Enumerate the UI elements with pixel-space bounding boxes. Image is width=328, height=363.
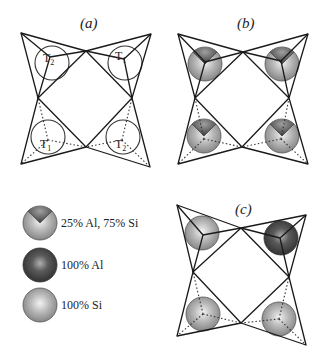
tetrahedron-top-left	[177, 205, 241, 272]
tetrahedron-bottom-right	[241, 277, 306, 345]
tetrahedron-bottom-right	[242, 98, 308, 164]
panel-b: (b)	[178, 15, 308, 164]
legend-label: 100% Al	[61, 258, 104, 272]
site-label-t2: T2	[43, 51, 54, 67]
panel-a: (a) T2 T1 T1	[21, 15, 151, 167]
tetrahedron-bottom-left	[178, 98, 242, 164]
mixed-site-sphere	[187, 119, 221, 153]
site-label-t1: T1	[115, 49, 126, 65]
si-sphere-icon	[23, 288, 57, 322]
tetrahedron-bottom-left	[177, 272, 241, 336]
panel-c-label: (c)	[235, 201, 252, 218]
tetrahedron-top-right: T1	[86, 34, 151, 98]
al-sphere-icon	[23, 248, 57, 282]
tetrahedron-bottom-right: T2	[86, 98, 150, 167]
legend-label: 100% Si	[61, 298, 103, 312]
site-label-t1: T1	[40, 137, 51, 153]
tetrahedra-figure: (a) T2 T1 T1	[0, 0, 328, 363]
mixed-site-sphere	[265, 119, 299, 153]
legend-item-al: 100% Al	[23, 248, 104, 282]
tetrahedron-top-left: T2	[21, 33, 86, 98]
legend-item-si: 100% Si	[23, 288, 103, 322]
tetrahedron-top-left	[178, 34, 243, 98]
panel-c: (c)	[177, 201, 306, 345]
legend-label: 25% Al, 75% Si	[61, 216, 139, 230]
mixed-sphere-icon	[23, 206, 57, 240]
legend: 25% Al, 75% Si 100% Al 100% Si	[23, 206, 139, 322]
tetrahedron-bottom-left: T1	[21, 98, 86, 164]
tetrahedron-top-right	[241, 215, 306, 277]
site-label-t2: T2	[115, 137, 126, 153]
panel-a-label: (a)	[80, 15, 98, 32]
panel-b-label: (b)	[237, 15, 255, 32]
tetrahedron-top-right	[243, 34, 308, 98]
legend-item-mixed: 25% Al, 75% Si	[23, 206, 139, 240]
